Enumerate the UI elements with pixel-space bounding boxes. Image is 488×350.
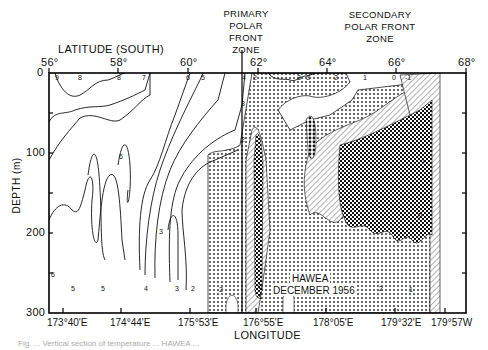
top-tick: 66°	[388, 56, 406, 68]
date-label: DECEMBER 1956	[271, 285, 357, 296]
bottom-tick: 173°40'E	[47, 317, 87, 328]
secondary-zone-line: POLAR FRONT	[330, 21, 430, 33]
contour-label: 0	[258, 283, 262, 290]
contour-label: 7	[142, 74, 146, 81]
contour-label: 8	[117, 74, 121, 81]
contour-label: 6	[119, 153, 123, 160]
contour-label: 6	[51, 271, 55, 278]
figure-caption: Fig. ... Vertical section of temperature…	[18, 339, 199, 348]
contour-label: 2	[379, 285, 383, 292]
top-tick: 58°	[110, 56, 128, 68]
contour-label: 2	[241, 136, 245, 143]
contour-label: 4	[242, 74, 246, 81]
depth-axis-title: DEPTH (m)	[11, 156, 22, 216]
bottom-tick: 179°57W	[431, 317, 472, 328]
longitude-axis-title: LONGITUDE	[234, 329, 301, 341]
primary-zone-label: PRIMARY POLAR FRONT ZONE	[222, 8, 270, 56]
contour-label: 5	[201, 74, 205, 81]
top-tick: 56°	[41, 56, 59, 68]
contour-label: 9	[55, 74, 59, 81]
primary-zone-line: ZONE	[222, 44, 270, 56]
contour-label: 6	[186, 74, 190, 81]
contour-label: 0	[392, 74, 396, 81]
latitude-axis-title: LATITUDE (SOUTH)	[58, 43, 164, 55]
contour-label: 1	[409, 286, 413, 293]
bottom-tick: 179°32'E	[381, 317, 421, 328]
contour-label: 3	[297, 74, 301, 81]
contour-label: 3	[159, 228, 163, 235]
top-tick: 68°	[458, 56, 476, 68]
secondary-zone-label: SECONDARY POLAR FRONT ZONE	[330, 9, 430, 45]
contour-label: 0	[418, 212, 422, 219]
bottom-tick: 176°55'E	[243, 317, 283, 328]
secondary-zone-line: SECONDARY	[330, 9, 430, 21]
y-tick: 200	[26, 226, 45, 238]
contour-label: 2	[253, 74, 257, 81]
secondary-zone-line: ZONE	[330, 33, 430, 45]
top-tick: 62°	[250, 56, 268, 68]
bottom-tick: 175°53'E	[178, 317, 218, 328]
contour-label: 2	[219, 286, 223, 293]
primary-zone-line: POLAR	[222, 20, 270, 32]
contour-label: 2	[334, 74, 338, 81]
bottom-tick: 174°44'E	[110, 317, 150, 328]
contour-label: 4	[144, 285, 148, 292]
contour-label: 1	[258, 293, 262, 300]
primary-zone-line: PRIMARY	[222, 8, 270, 20]
primary-zone-line: FRONT	[222, 32, 270, 44]
top-tick: 64°	[319, 56, 337, 68]
contour-label: 5	[71, 285, 75, 292]
contour-label: 1	[421, 157, 425, 164]
bottom-tick: 178°05'E	[313, 317, 353, 328]
contour-label: 8	[78, 74, 82, 81]
contour-label: 1	[363, 74, 367, 81]
contour-label: 3	[175, 285, 179, 292]
y-tick: 300	[26, 306, 45, 318]
contour-label: -1	[405, 74, 411, 81]
contour-label: 5	[101, 285, 105, 292]
contour-label: 3	[241, 100, 245, 107]
y-tick: 0	[37, 66, 43, 78]
ship-label: HAWEA	[290, 273, 330, 284]
contour-label: 3	[306, 74, 310, 81]
y-tick: 100	[26, 146, 45, 158]
contour-label: 2	[191, 285, 195, 292]
top-tick: 60°	[180, 56, 198, 68]
